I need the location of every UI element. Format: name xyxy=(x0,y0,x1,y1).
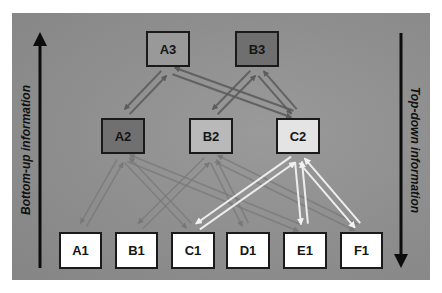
node-d1: D1 xyxy=(226,232,270,269)
node-a2: A2 xyxy=(101,118,145,154)
node-b1: B1 xyxy=(115,232,158,269)
edge-f1-to-b2 xyxy=(218,156,358,225)
edge-a2-to-a1 xyxy=(81,160,118,224)
edge-c1-to-c2 xyxy=(200,162,295,229)
edge-f1-to-c2 xyxy=(305,158,361,223)
node-c1: C1 xyxy=(171,232,215,269)
edge-b2-to-b1 xyxy=(138,158,204,224)
top-down-label: Top-down information xyxy=(408,87,422,213)
bottom-up-arrowhead-icon xyxy=(33,32,47,46)
edge-a3-to-a2 xyxy=(125,71,162,109)
bottom-up-label: Bottom-up information xyxy=(19,85,33,215)
edge-c2-to-a3 xyxy=(175,68,294,111)
node-a3: A3 xyxy=(146,31,190,67)
node-c2: C2 xyxy=(276,118,320,154)
node-e1: E1 xyxy=(283,232,327,269)
edge-a2-to-a3 xyxy=(130,76,167,114)
node-f1: F1 xyxy=(340,232,383,269)
edge-a1-to-a2 xyxy=(87,163,124,227)
node-a1: A1 xyxy=(59,232,102,269)
edge-e1-to-a2 xyxy=(130,155,301,225)
edge-a3-to-c2 xyxy=(173,74,292,117)
edge-c2-to-b3 xyxy=(264,71,297,109)
top-down-arrowhead-icon xyxy=(394,254,408,268)
node-b3: B3 xyxy=(235,31,279,67)
node-b2: B2 xyxy=(189,118,233,154)
